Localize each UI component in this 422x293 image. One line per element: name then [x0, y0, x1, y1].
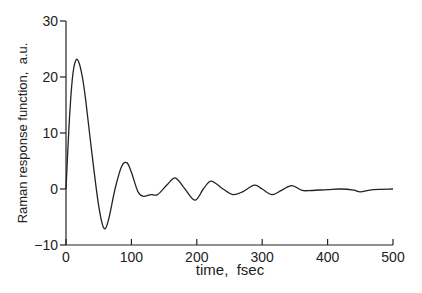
- y-ticks: −100102030: [34, 13, 66, 253]
- y-tick-label: 0: [50, 181, 58, 197]
- x-axis-label: time, fsec: [196, 261, 265, 278]
- y-axis-label: Raman response function, a.u.: [15, 43, 30, 224]
- y-tick-label: 30: [42, 13, 58, 29]
- x-tick-label: 500: [381, 249, 405, 265]
- x-tick-label: 100: [120, 249, 144, 265]
- y-tick-label: 10: [42, 125, 58, 141]
- x-tick-label: 400: [316, 249, 340, 265]
- y-tick-label: 20: [42, 69, 58, 85]
- data-line: [66, 59, 393, 229]
- chart: −100102030 0100200300400500 time, fsec R…: [0, 0, 422, 293]
- y-tick-label: −10: [34, 237, 58, 253]
- x-tick-label: 0: [62, 249, 70, 265]
- axes: [66, 21, 393, 245]
